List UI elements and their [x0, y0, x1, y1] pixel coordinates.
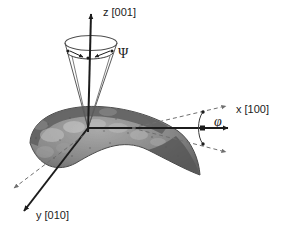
axis-z-label: z [001]: [103, 6, 136, 18]
phi-arc-dot-upper: [201, 110, 204, 113]
axis-x-label: x [100]: [236, 103, 269, 115]
axis-y-label: y [010]: [36, 209, 69, 221]
turbine-blade: [30, 106, 200, 175]
phi-origin-marker: [200, 126, 205, 131]
angle-psi-label: Ψ: [118, 46, 129, 61]
figure-canvas: z [001] x [100] y [010] Ψ φ: [0, 0, 287, 229]
angle-phi-label: φ: [214, 114, 222, 129]
crystal-orientation-figure: z [001] x [100] y [010] Ψ φ: [0, 0, 287, 229]
phi-arc-dot-lower: [201, 142, 204, 145]
